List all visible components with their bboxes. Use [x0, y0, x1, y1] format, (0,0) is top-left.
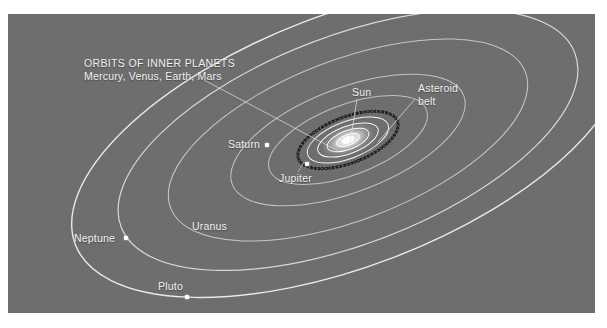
label-asteroid-belt-line1: Asteroid	[418, 82, 458, 95]
label-sun: Sun	[352, 86, 371, 99]
label-jupiter: Jupiter	[279, 172, 312, 185]
label-asteroid-belt-line2: belt	[418, 95, 436, 108]
label-uranus: Uranus	[192, 220, 227, 233]
label-inner-planets-title: ORBITS OF INNER PLANETS	[84, 57, 235, 70]
marker-neptune	[124, 236, 128, 240]
label-inner-planets-list: Mercury, Venus, Earth, Mars	[84, 70, 222, 83]
leader-line-asteroid-belt	[378, 99, 415, 142]
label-neptune: Neptune	[74, 232, 115, 245]
figure-canvas: ORBITS OF INNER PLANETS Mercury, Venus, …	[0, 0, 607, 328]
label-pluto: Pluto	[158, 280, 183, 293]
marker-pluto	[185, 295, 189, 299]
solar-system-diagram: ORBITS OF INNER PLANETS Mercury, Venus, …	[8, 14, 595, 313]
marker-jupiter	[305, 162, 309, 166]
label-saturn: Saturn	[228, 138, 260, 151]
marker-saturn	[265, 143, 269, 147]
